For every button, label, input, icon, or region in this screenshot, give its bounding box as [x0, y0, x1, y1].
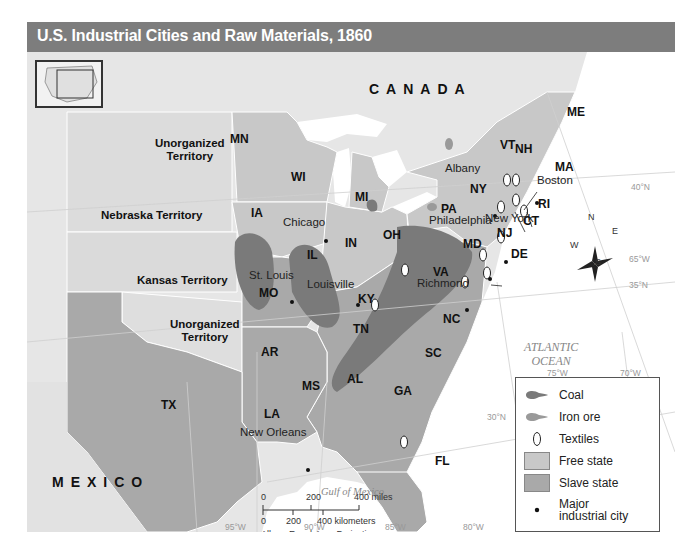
state-label-mo: MO — [259, 286, 278, 300]
coal-icon — [524, 386, 550, 404]
legend-item-free-state: Free state — [524, 450, 613, 472]
state-label-ia: IA — [251, 206, 263, 220]
city-label-chicago: Chicago — [283, 216, 325, 228]
iron-ore-ny — [445, 138, 453, 150]
state-label-nc: NC — [443, 312, 460, 326]
city-label-albany: Albany — [445, 162, 480, 174]
state-label-nj: NJ — [497, 226, 512, 240]
scale-miles-200: 200 — [306, 492, 321, 502]
territory-label-kansas: Kansas Territory — [137, 274, 228, 287]
state-label-ga: GA — [394, 384, 412, 398]
grid-label-95w: 95°W — [225, 522, 246, 532]
grid-label-85w: 85°W — [385, 522, 406, 532]
city-label-philadelphia: Philadelphia — [429, 214, 492, 226]
state-label-ms: MS — [302, 379, 320, 393]
free-state-swatch — [524, 452, 550, 470]
state-label-ky: KY — [358, 292, 375, 306]
scale-projection: Albers Equal-Area Projection — [261, 529, 377, 532]
iron-ore-pa — [427, 203, 437, 211]
country-label-canada: CANADA — [369, 81, 472, 97]
legend: Coal Iron ore Textiles Free state Slave … — [515, 377, 660, 532]
state-label-il: IL — [307, 248, 318, 262]
state-label-tn: TN — [353, 322, 369, 336]
map-title: U.S. Industrial Cities and Raw Materials… — [37, 27, 372, 45]
grid-label-40n: 40°N — [631, 182, 650, 192]
compass-s: S — [595, 257, 601, 267]
grid-label-65w: 65°W — [629, 254, 650, 264]
legend-item-coal: Coal — [524, 384, 584, 406]
grid-label-80w: 80°W — [463, 522, 484, 532]
inset-locator-map — [35, 60, 103, 108]
state-label-vt: VT — [500, 138, 515, 152]
country-label-mexico: MEXICO — [52, 474, 149, 490]
compass-w: W — [570, 240, 579, 250]
state-label-ri: RI — [538, 197, 550, 211]
state-label-fl: FL — [435, 454, 450, 468]
scale-miles-400: 400 miles — [354, 492, 393, 502]
inset-map-icon — [37, 62, 101, 106]
state-label-la: LA — [264, 407, 280, 421]
scale-km-200: 200 — [286, 516, 301, 526]
territory-label-nebraska: Nebraska Territory — [101, 209, 202, 222]
scale-km-0: 0 — [261, 516, 266, 526]
map-figure: U.S. Industrial Cities and Raw Materials… — [27, 22, 675, 532]
state-label-mi: MI — [355, 190, 368, 204]
state-label-wi: WI — [291, 170, 306, 184]
grid-label-30n: 30°N — [487, 412, 506, 422]
slave-state-swatch — [524, 474, 550, 492]
city-label-new-york: New York — [485, 212, 534, 224]
city-label-st-louis: St. Louis — [249, 269, 294, 281]
compass-n: N — [588, 212, 595, 222]
state-label-ar: AR — [261, 345, 278, 359]
state-label-sc: SC — [425, 346, 442, 360]
state-label-de: DE — [511, 247, 528, 261]
state-label-mn: MN — [230, 132, 249, 146]
legend-item-iron-ore: Iron ore — [524, 406, 600, 428]
state-label-in: IN — [345, 236, 357, 250]
state-label-md: MD — [463, 237, 482, 251]
city-label-new-orleans: New Orleans — [240, 426, 306, 438]
state-label-ma: MA — [555, 160, 574, 174]
scale-km-400: 400 kilometers — [317, 516, 376, 526]
iron-ore-icon — [524, 408, 550, 426]
state-label-me: ME — [567, 105, 585, 119]
city-dot-icon — [524, 501, 550, 519]
grid-label-35n: 35°N — [629, 280, 648, 290]
city-label-louisville: Louisville — [307, 278, 354, 290]
city-label-richmond: Richmond — [417, 277, 469, 289]
ocean-label: ATLANTIC OCEAN — [524, 340, 578, 368]
legend-item-textiles: Textiles — [524, 428, 599, 450]
state-label-nh: NH — [515, 142, 532, 156]
textiles-icon — [524, 430, 550, 448]
city-label-boston: Boston — [537, 174, 573, 186]
state-label-al: AL — [347, 372, 363, 386]
state-label-tx: TX — [161, 398, 176, 412]
territory-label-unorganized-south: Unorganized Territory — [170, 318, 240, 344]
legend-item-industrial-city: Major industrial city — [524, 496, 628, 524]
compass-e: E — [612, 226, 618, 236]
legend-item-slave-state: Slave state — [524, 472, 618, 494]
scale-miles-0: 0 — [261, 492, 266, 502]
territory-label-unorganized-north: Unorganized Territory — [155, 137, 225, 163]
state-label-oh: OH — [383, 228, 401, 242]
title-bar: U.S. Industrial Cities and Raw Materials… — [27, 22, 675, 52]
state-label-ny: NY — [470, 182, 487, 196]
